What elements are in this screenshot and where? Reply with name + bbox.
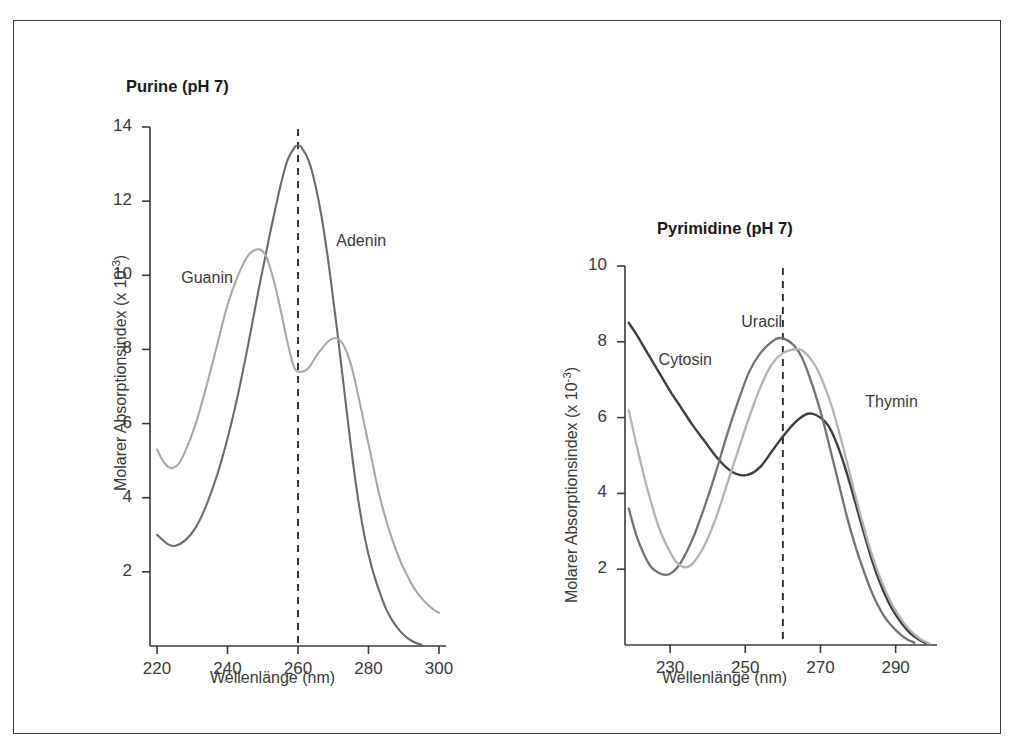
y-tick-label: 10: [113, 264, 132, 284]
y-tick-label: 2: [123, 561, 132, 581]
curve-uracil: [629, 338, 915, 643]
y-tick-label: 6: [123, 413, 132, 433]
chart-panel-pyrimidine: Pyrimidine (pH 7) Molarer Absorptionsind…: [494, 21, 1002, 735]
y-tick-label: 4: [123, 487, 132, 507]
y-tick-label: 12: [113, 190, 132, 210]
curve-adenin: [157, 145, 421, 644]
curve-label-thymin: Thymin: [865, 393, 917, 411]
x-tick-label: 240: [213, 659, 241, 679]
y-tick-label: 2: [598, 558, 607, 578]
y-tick-label: 14: [113, 116, 132, 136]
x-tick-label: 230: [656, 658, 684, 678]
curve-label-uracil: Uracil: [741, 313, 782, 331]
chart-canvas-purine: [14, 21, 494, 735]
x-tick-label: 300: [425, 659, 453, 679]
x-tick-label: 290: [881, 658, 909, 678]
figure-frame: Purine (pH 7) Molarer Absorptionsindex (…: [13, 20, 1001, 734]
curve-label-guanin: Guanin: [181, 269, 233, 287]
y-tick-label: 8: [598, 331, 607, 351]
x-tick-label: 280: [354, 659, 382, 679]
chart-canvas-pyrimidine: [494, 21, 1002, 735]
y-tick-label: 4: [598, 482, 607, 502]
curve-cytosin: [629, 323, 926, 643]
curve-label-adenin: Adenin: [336, 232, 386, 250]
chart-panel-purine: Purine (pH 7) Molarer Absorptionsindex (…: [14, 21, 494, 735]
figure-stage: Purine (pH 7) Molarer Absorptionsindex (…: [0, 0, 1015, 746]
curve-label-cytosin: Cytosin: [659, 351, 712, 369]
x-tick-label: 220: [143, 659, 171, 679]
y-tick-label: 10: [588, 255, 607, 275]
y-tick-label: 8: [123, 338, 132, 358]
x-tick-label: 270: [806, 658, 834, 678]
y-tick-label: 6: [598, 407, 607, 427]
x-tick-label: 250: [731, 658, 759, 678]
x-tick-label: 260: [284, 659, 312, 679]
